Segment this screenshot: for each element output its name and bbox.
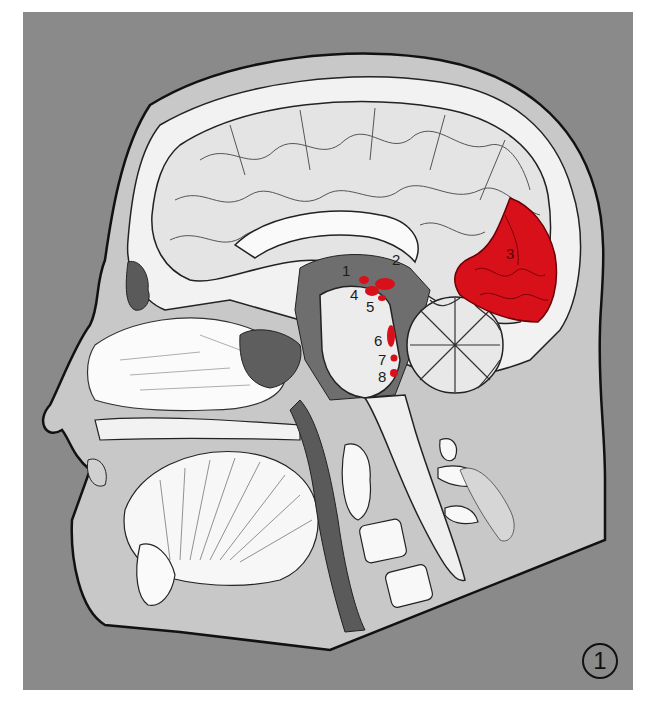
nucleus-8 [390,369,398,377]
structure-label-3: 3 [506,246,514,261]
structure-label-6: 6 [374,333,382,348]
nucleus-2-area [375,278,395,290]
figure-number-badge: 1 [582,643,618,679]
nucleus-1 [359,276,369,284]
figure-number-text: 1 [593,647,606,675]
nucleus-7 [391,355,398,362]
vertebra-c3 [359,518,408,564]
nucleus-6 [387,325,395,347]
nucleus-4 [365,286,379,296]
structure-label-7: 7 [378,352,386,367]
structure-label-1: 1 [342,263,350,278]
structure-label-2: 2 [392,252,400,267]
structure-label-4: 4 [350,287,358,302]
head-sagittal-illustration [0,0,657,717]
structure-label-8: 8 [378,369,386,384]
structure-label-5: 5 [366,299,374,314]
nucleus-5 [378,295,386,301]
